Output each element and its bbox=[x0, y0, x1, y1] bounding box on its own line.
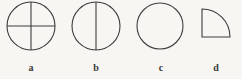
figure-d: d bbox=[198, 0, 234, 79]
figure-d-label: d bbox=[198, 62, 234, 74]
circle-plain-icon bbox=[136, 0, 186, 52]
figure-b-label: b bbox=[71, 62, 121, 74]
figure-c: c bbox=[136, 0, 186, 79]
figure-a: a bbox=[6, 0, 56, 79]
quarter-circle-icon bbox=[198, 0, 234, 40]
figure-c-label: c bbox=[136, 62, 186, 74]
circle-halved-icon bbox=[71, 0, 121, 52]
figure-a-label: a bbox=[6, 62, 56, 74]
figure-row: a b c d bbox=[0, 0, 242, 79]
figure-b: b bbox=[71, 0, 121, 79]
circle-quartered-icon bbox=[6, 0, 56, 52]
